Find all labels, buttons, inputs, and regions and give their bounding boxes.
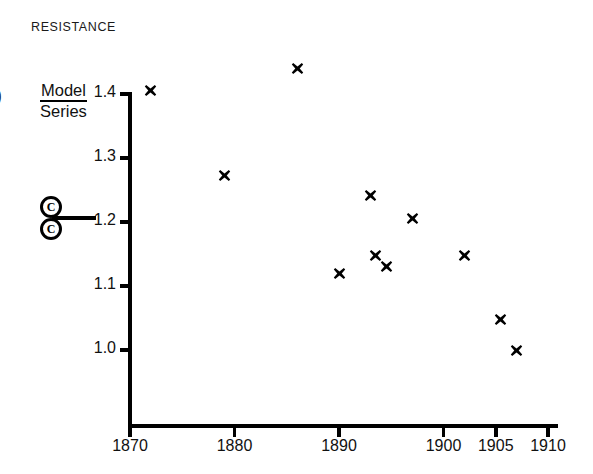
- y-tick-mark: [120, 348, 128, 352]
- y-axis-line: [128, 92, 132, 428]
- x-tick-mark: [233, 428, 237, 437]
- y-tick-label: 1.0: [72, 339, 116, 357]
- y-tick-mark: [120, 92, 128, 96]
- x-tick-mark: [128, 428, 132, 437]
- x-tick-label: 1900: [414, 437, 474, 455]
- data-point-marker: [380, 260, 393, 273]
- x-tick-label: 1905: [466, 437, 526, 455]
- x-tick-mark: [494, 428, 498, 437]
- x-tick-label: 1910: [518, 437, 578, 455]
- figure-container: ) RESISTANCE Model Series C C 1.01.11.21…: [0, 0, 593, 474]
- data-point-marker: [510, 344, 523, 357]
- x-tick-mark: [546, 428, 550, 437]
- y-tick-label: 1.3: [72, 147, 116, 165]
- data-point-marker: [144, 84, 157, 97]
- data-point-marker: [291, 62, 304, 75]
- data-point-marker: [406, 212, 419, 225]
- x-tick-label: 1870: [100, 437, 160, 455]
- data-point-marker: [458, 249, 471, 262]
- data-point-marker: [218, 169, 231, 182]
- y-tick-label: 1.4: [72, 83, 116, 101]
- y-tick-mark: [120, 156, 128, 160]
- y-tick-label: 1.1: [72, 275, 116, 293]
- y-tick-label: 1.2: [72, 211, 116, 229]
- x-tick-mark: [442, 428, 446, 437]
- y-tick-mark: [120, 284, 128, 288]
- data-point-marker: [333, 267, 346, 280]
- data-point-marker: [364, 189, 377, 202]
- x-tick-label: 1880: [205, 437, 265, 455]
- x-tick-mark: [337, 428, 341, 437]
- data-point-marker: [494, 313, 507, 326]
- plot-area: 1.01.11.21.31.4 187018801890190019051910: [0, 0, 593, 474]
- y-tick-mark: [120, 220, 128, 224]
- x-tick-label: 1890: [309, 437, 369, 455]
